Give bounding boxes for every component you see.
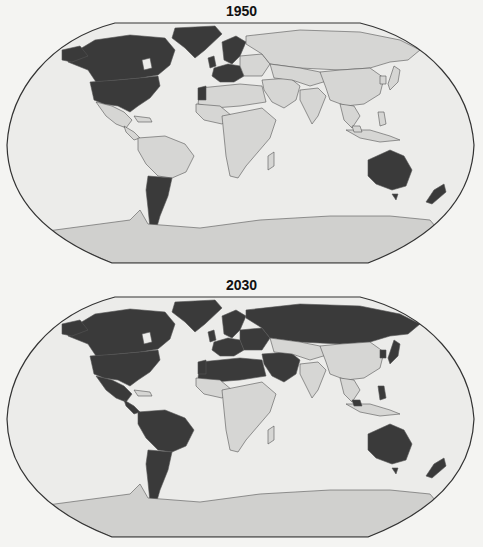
region-malaysia [352,126,362,132]
region-westsahara [198,86,206,100]
region-korea [380,350,386,358]
map-panel-1950: 1950 [0,0,483,270]
map-title-1950: 1950 [0,3,483,19]
region-hudson [142,332,152,344]
map-panel-2030: 2030 [0,274,483,544]
region-korea [380,76,386,84]
region-malaysia [352,400,362,406]
region-westsahara [198,360,206,374]
region-hudson [142,58,152,70]
map-title-2030: 2030 [0,277,483,293]
world-map-1950 [0,20,483,270]
world-map-2030 [0,294,483,544]
